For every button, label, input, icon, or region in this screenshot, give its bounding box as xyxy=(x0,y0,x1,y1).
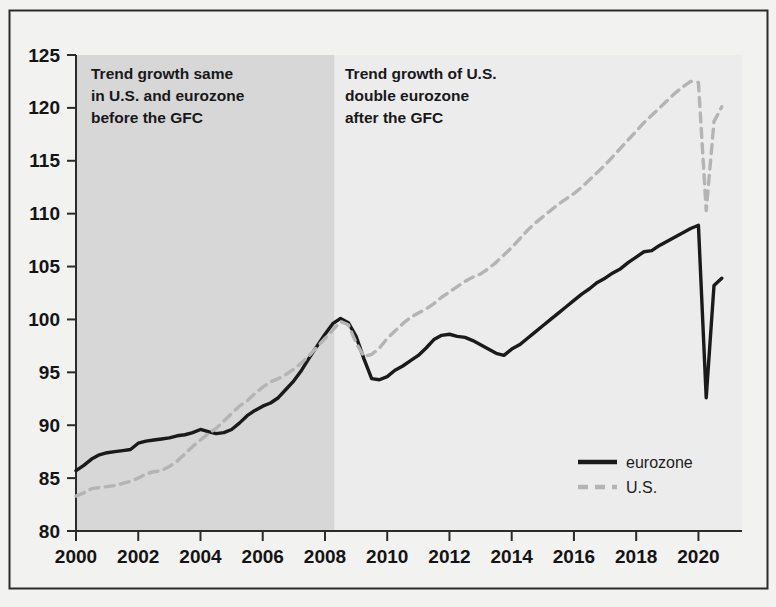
y-tick-label: 80 xyxy=(39,521,60,542)
y-tick-label: 95 xyxy=(39,362,61,383)
x-tick-label: 2016 xyxy=(553,546,595,567)
y-tick-label: 120 xyxy=(28,97,60,118)
y-tick-label: 100 xyxy=(28,309,60,330)
y-tick-label: 85 xyxy=(39,468,61,489)
y-tick-label: 105 xyxy=(28,256,60,277)
x-tick-label: 2020 xyxy=(677,546,719,567)
annotation-pre-gfc-line-1: Trend growth same xyxy=(91,65,233,82)
x-tick-label: 2000 xyxy=(55,546,97,567)
legend-label-us: U.S. xyxy=(626,479,657,496)
legend-label-eurozone: eurozone xyxy=(626,454,693,471)
annotation-post-gfc-line-1: Trend growth of U.S. xyxy=(345,65,497,82)
x-tick-label: 2006 xyxy=(242,546,284,567)
pre-gfc-shaded-band xyxy=(76,55,334,531)
shaded-band-rect xyxy=(76,55,334,531)
chart-figure: 2000200220042006200820102012201420162018… xyxy=(0,0,776,607)
annotation-post-gfc-line-2: double eurozone xyxy=(345,87,469,104)
x-tick-label: 2018 xyxy=(615,546,657,567)
y-tick-label: 110 xyxy=(29,203,60,224)
y-tick-label: 90 xyxy=(39,415,60,436)
x-tick-label: 2010 xyxy=(366,546,408,567)
x-tick-label: 2012 xyxy=(428,546,470,567)
annotation-pre-gfc-line-3: before the GFC xyxy=(91,109,203,126)
y-tick-label: 115 xyxy=(29,150,60,171)
annotation-pre-gfc-line-2: in U.S. and eurozone xyxy=(91,87,245,104)
annotation-post-gfc-line-3: after the GFC xyxy=(345,109,443,126)
y-tick-label: 125 xyxy=(28,45,60,66)
line-chart: 2000200220042006200820102012201420162018… xyxy=(0,0,776,607)
x-tick-label: 2008 xyxy=(304,546,346,567)
x-tick-label: 2004 xyxy=(179,546,222,567)
x-tick-label: 2014 xyxy=(491,546,534,567)
x-tick-label: 2002 xyxy=(117,546,159,567)
